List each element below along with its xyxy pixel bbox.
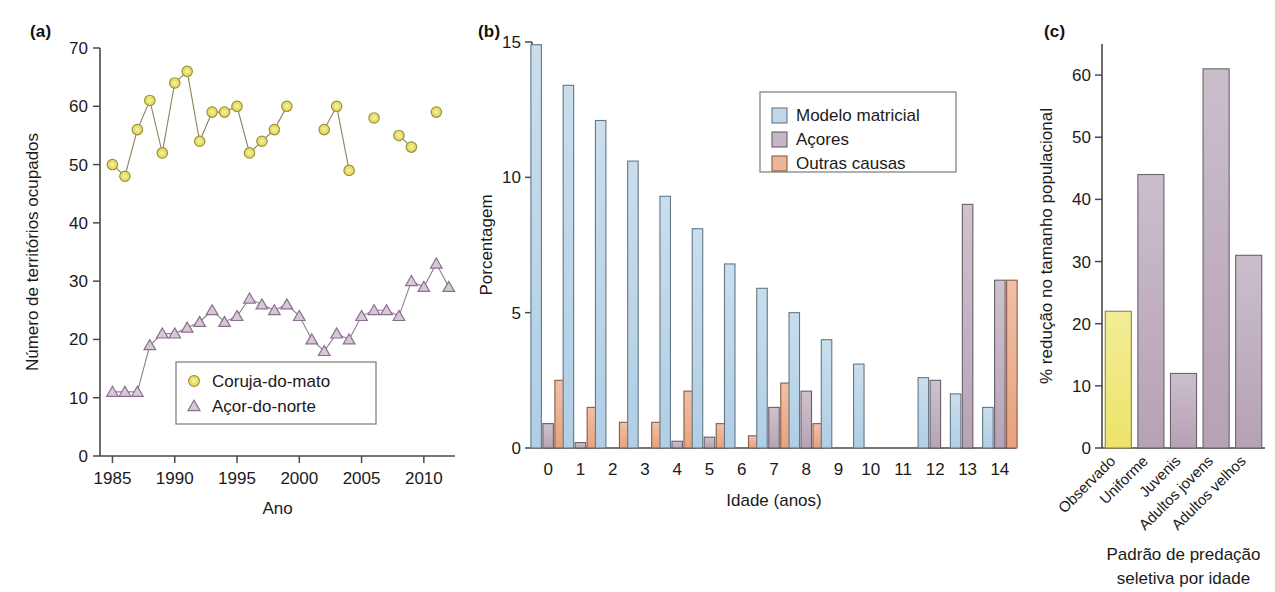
bar-açores-age-5 — [704, 437, 715, 448]
data-point-acor — [306, 334, 318, 344]
data-point-acor — [431, 258, 443, 268]
bar-observado — [1105, 311, 1131, 448]
bar-outras-causas-age-14 — [1007, 280, 1018, 448]
data-point-acor — [231, 311, 243, 321]
bar-juvenis — [1170, 373, 1196, 448]
panel-b-plot: 05101501234567891011121314Idade (anos)Po… — [470, 10, 1030, 550]
data-point-acor — [107, 386, 119, 396]
bar-açores-age-7 — [769, 407, 780, 448]
svg-text:13: 13 — [958, 460, 977, 479]
svg-text:12: 12 — [926, 460, 945, 479]
svg-text:1: 1 — [576, 460, 585, 479]
panel-b: (b) 05101501234567891011121314Idade (ano… — [470, 0, 1030, 592]
data-point-acor — [381, 305, 393, 315]
svg-text:20: 20 — [1072, 315, 1091, 334]
legend-swatch-b — [772, 108, 787, 123]
bar-modelo-matricial-age-10 — [854, 364, 865, 448]
svg-text:0: 0 — [543, 460, 552, 479]
data-point-acor — [181, 322, 193, 332]
data-point-acor — [331, 328, 343, 338]
svg-text:10: 10 — [861, 460, 880, 479]
bar-modelo-matricial-age-5 — [692, 229, 703, 448]
bar-modelo-matricial-age-0 — [531, 45, 541, 448]
bar-açores-age-0 — [543, 424, 554, 448]
svg-text:40: 40 — [69, 214, 88, 233]
data-point-acor — [443, 281, 455, 291]
bar-açores-age-13 — [962, 204, 973, 448]
data-point-acor — [244, 293, 256, 303]
svg-text:50: 50 — [1072, 128, 1091, 147]
panel-a: (a) 010203040506070198519901995200020052… — [0, 0, 470, 592]
data-point-acor — [343, 334, 355, 344]
legend-label-a: Coruja-do-mato — [212, 372, 330, 391]
svg-text:6: 6 — [737, 460, 746, 479]
legend-swatch-b — [772, 132, 787, 147]
bar-modelo-matricial-age-8 — [789, 313, 800, 448]
svg-text:30: 30 — [1072, 253, 1091, 272]
bar-açores-age-12 — [930, 380, 941, 448]
data-point-acor — [418, 281, 430, 291]
data-point-acor — [169, 328, 181, 338]
svg-text:1985: 1985 — [94, 469, 132, 488]
bar-modelo-matricial-age-13 — [950, 394, 961, 448]
svg-text:2005: 2005 — [343, 469, 381, 488]
svg-text:1995: 1995 — [218, 469, 256, 488]
svg-text:Ano: Ano — [262, 499, 292, 518]
bar-modelo-matricial-age-9 — [821, 340, 832, 448]
bar-uniforme — [1138, 175, 1164, 448]
svg-text:11: 11 — [894, 460, 912, 479]
bar-modelo-matricial-age-7 — [757, 288, 768, 448]
svg-text:0: 0 — [79, 447, 88, 466]
data-point-acor — [269, 305, 281, 315]
svg-text:% redução no tamanho populacio: % redução no tamanho populacional — [1037, 108, 1056, 384]
svg-text:15: 15 — [502, 33, 521, 52]
svg-text:2: 2 — [608, 460, 617, 479]
figure-root: (a) 010203040506070198519901995200020052… — [0, 0, 1275, 592]
panel-c-xlabel-line2: seletiva por idade — [1117, 569, 1250, 588]
data-point-acor — [206, 305, 218, 315]
svg-text:30: 30 — [69, 272, 88, 291]
bar-adultos-jovens — [1203, 69, 1229, 448]
svg-text:Número de territórios ocupados: Número de territórios ocupados — [23, 133, 42, 371]
bar-adultos-velhos — [1236, 255, 1262, 448]
bar-modelo-matricial-age-2 — [595, 120, 605, 448]
svg-text:50: 50 — [69, 156, 88, 175]
svg-text:70: 70 — [69, 39, 88, 58]
data-point-acor — [256, 299, 268, 309]
svg-text:0: 0 — [1082, 439, 1091, 458]
svg-text:5: 5 — [705, 460, 714, 479]
data-point-acor — [393, 311, 405, 321]
svg-text:40: 40 — [1072, 190, 1091, 209]
data-point-acor — [132, 386, 144, 396]
data-point-acor — [406, 276, 418, 286]
svg-text:10: 10 — [1072, 377, 1091, 396]
svg-text:4: 4 — [672, 460, 681, 479]
svg-text:10: 10 — [69, 389, 88, 408]
data-point-acor — [281, 299, 293, 309]
svg-text:7: 7 — [769, 460, 778, 479]
panel-a-plot: 010203040506070198519901995200020052010A… — [0, 10, 470, 550]
panel-c-plot: 0102030405060% redução no tamanho popula… — [1030, 10, 1275, 592]
data-point-acor — [119, 386, 131, 396]
bar-açores-age-1 — [575, 443, 586, 448]
data-point-acor — [368, 305, 380, 315]
data-point-acor — [356, 311, 368, 321]
panel-c: (c) 0102030405060% redução no tamanho po… — [1030, 0, 1275, 592]
legend-swatch-b — [772, 156, 787, 171]
legend-label-b: Modelo matricial — [796, 106, 920, 125]
svg-text:20: 20 — [69, 330, 88, 349]
svg-text:14: 14 — [990, 460, 1009, 479]
svg-text:5: 5 — [512, 304, 521, 323]
bar-açores-age-14 — [995, 280, 1006, 448]
svg-text:10: 10 — [502, 168, 521, 187]
svg-text:60: 60 — [1072, 66, 1091, 85]
bar-modelo-matricial-age-12 — [918, 378, 929, 448]
legend-label-b: Outras causas — [796, 154, 906, 173]
bar-modelo-matricial-age-1 — [563, 85, 574, 448]
panel-c-xlabel-line1: Padrão de predação — [1106, 545, 1260, 564]
svg-text:0: 0 — [512, 439, 521, 458]
bar-modelo-matricial-age-14 — [983, 407, 994, 448]
bar-açores-age-8 — [801, 391, 812, 448]
svg-text:8: 8 — [802, 460, 811, 479]
svg-text:2010: 2010 — [405, 469, 443, 488]
